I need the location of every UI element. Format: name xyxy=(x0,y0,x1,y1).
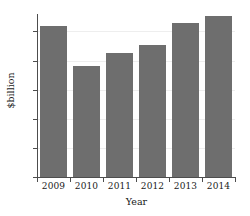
y-tick-mark xyxy=(33,31,37,32)
x-axis-title: Year xyxy=(37,196,236,207)
x-tick-label: 2010 xyxy=(70,181,103,191)
bar[interactable] xyxy=(139,45,165,177)
bar[interactable] xyxy=(106,53,132,177)
plot-area xyxy=(37,14,235,177)
bar[interactable] xyxy=(205,16,231,177)
x-tick-label: 2013 xyxy=(169,181,202,191)
y-tick-mark xyxy=(33,148,37,149)
x-tick-label: 2012 xyxy=(136,181,169,191)
y-axis-spine xyxy=(37,14,38,178)
bar[interactable] xyxy=(172,23,198,177)
bar[interactable] xyxy=(40,26,66,177)
y-tick-mark xyxy=(33,90,37,91)
x-tick-label: 2011 xyxy=(103,181,136,191)
y-tick-mark xyxy=(33,61,37,62)
y-axis-title: $billion xyxy=(5,61,16,121)
x-tick-label: 2009 xyxy=(37,181,70,191)
y-tick-mark xyxy=(33,119,37,120)
bar[interactable] xyxy=(73,66,99,177)
bar-chart: $billion Year 02468102009201020112012201… xyxy=(0,0,250,216)
x-tick-mark xyxy=(235,178,236,182)
x-tick-label: 2014 xyxy=(202,181,235,191)
